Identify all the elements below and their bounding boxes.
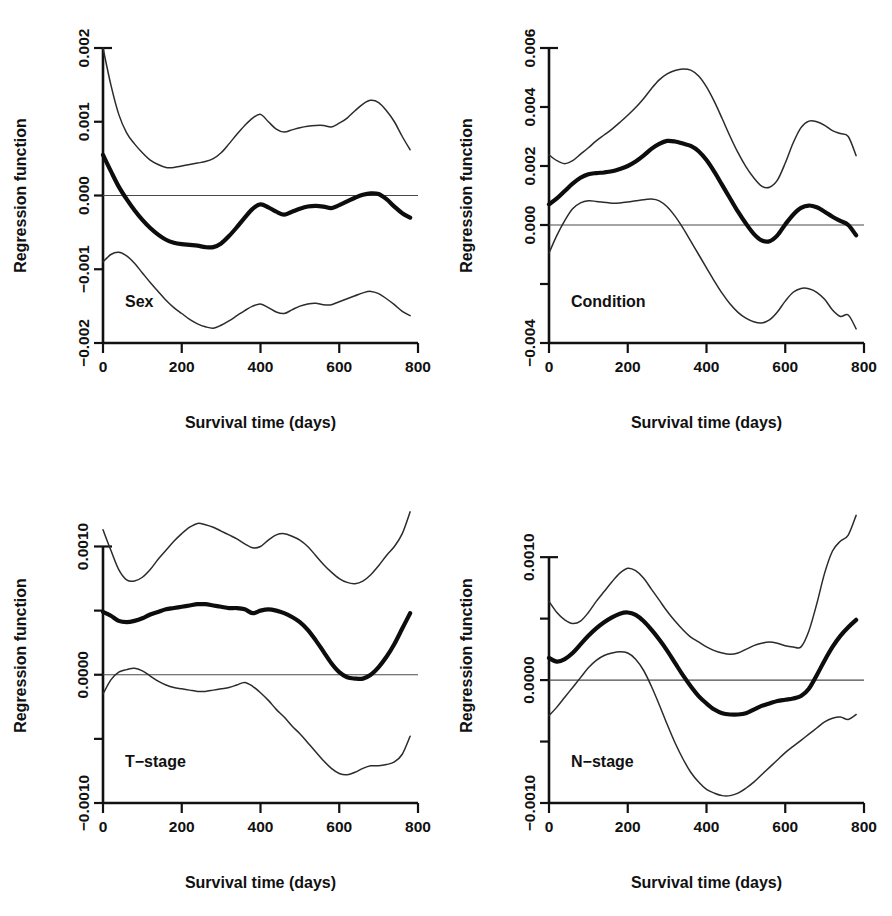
- chart-canvas-sex: −0.002−0.0010.0000.0010.0020200400600800…: [0, 0, 446, 448]
- curve-confidence-limit: [549, 652, 856, 796]
- curve-confidence-limit: [549, 69, 856, 188]
- y-tick-label: 0.002: [75, 29, 92, 68]
- curve-confidence-limit: [103, 252, 410, 328]
- y-tick-label: −0.002: [75, 319, 92, 367]
- chart-canvas-t-stage: −0.00100.00000.00100200400600800T−stageS…: [0, 460, 446, 908]
- y-tick-label: 0.0010: [75, 523, 92, 570]
- y-tick-label: 0.0010: [521, 533, 538, 580]
- panel-t-stage: −0.00100.00000.00100200400600800T−stageS…: [0, 460, 446, 908]
- y-axis-title: Regression function: [12, 578, 29, 733]
- y-tick-label: 0.004: [521, 87, 538, 126]
- x-axis-title: Survival time (days): [185, 874, 336, 891]
- y-tick-label: 0.006: [521, 28, 538, 67]
- y-tick-label: −0.0010: [521, 775, 538, 831]
- x-tick-label: 200: [615, 818, 641, 835]
- x-tick-label: 800: [405, 358, 431, 375]
- panel-condition: −0.0040.0000.0020.0040.0060200400600800C…: [446, 0, 892, 448]
- y-axis-title: Regression function: [458, 578, 475, 733]
- x-tick-label: 0: [545, 358, 554, 375]
- y-axis-title: Regression function: [458, 118, 475, 273]
- y-tick-label: 0.0000: [521, 656, 538, 703]
- panel-n-stage: −0.00100.00000.00100200400600800N−stageS…: [446, 460, 892, 908]
- x-tick-label: 800: [851, 358, 877, 375]
- curve-confidence-limit: [549, 515, 856, 654]
- x-tick-label: 200: [169, 358, 195, 375]
- panel-label: Condition: [571, 293, 646, 310]
- chart-canvas-condition: −0.0040.0000.0020.0040.0060200400600800C…: [446, 0, 892, 448]
- x-tick-label: 200: [169, 818, 195, 835]
- x-tick-label: 600: [772, 358, 798, 375]
- x-tick-label: 600: [326, 818, 352, 835]
- y-tick-label: 0.000: [521, 206, 538, 245]
- curve-estimate: [549, 141, 856, 242]
- x-tick-label: 400: [694, 818, 720, 835]
- y-tick-label: −0.001: [75, 245, 92, 293]
- panel-sex: −0.002−0.0010.0000.0010.0020200400600800…: [0, 0, 446, 448]
- y-tick-label: 0.0000: [75, 651, 92, 698]
- y-tick-label: −0.0010: [75, 775, 92, 831]
- curve-estimate: [103, 604, 410, 679]
- x-axis-title: Survival time (days): [185, 414, 336, 431]
- x-tick-label: 400: [694, 358, 720, 375]
- curve-estimate: [103, 155, 410, 248]
- chart-canvas-n-stage: −0.00100.00000.00100200400600800N−stageS…: [446, 460, 892, 908]
- y-tick-label: 0.001: [75, 102, 92, 141]
- figure-root: −0.002−0.0010.0000.0010.0020200400600800…: [0, 0, 892, 916]
- x-tick-label: 400: [248, 818, 274, 835]
- curve-confidence-limit: [103, 48, 410, 168]
- x-tick-label: 600: [326, 358, 352, 375]
- x-tick-label: 0: [99, 358, 108, 375]
- x-tick-label: 0: [99, 818, 108, 835]
- panel-label: Sex: [125, 293, 154, 310]
- panel-label: T−stage: [125, 753, 186, 770]
- y-axis-title: Regression function: [12, 118, 29, 273]
- y-tick-label: −0.004: [521, 319, 538, 367]
- x-tick-label: 200: [615, 358, 641, 375]
- x-axis-title: Survival time (days): [631, 874, 782, 891]
- panel-label: N−stage: [571, 753, 634, 770]
- x-tick-label: 400: [248, 358, 274, 375]
- x-tick-label: 0: [545, 818, 554, 835]
- curve-confidence-limit: [103, 512, 410, 584]
- x-tick-label: 800: [851, 818, 877, 835]
- y-tick-label: 0.000: [75, 176, 92, 215]
- x-axis-title: Survival time (days): [631, 414, 782, 431]
- x-tick-label: 800: [405, 818, 431, 835]
- x-tick-label: 600: [772, 818, 798, 835]
- y-tick-label: 0.002: [521, 147, 538, 186]
